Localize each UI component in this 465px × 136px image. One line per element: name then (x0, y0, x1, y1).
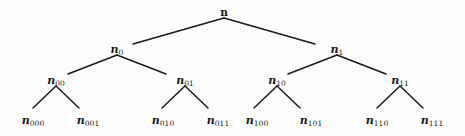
tree-node-n01: n01 (176, 71, 194, 88)
tree-edge (254, 86, 277, 108)
tree-node-n110: n110 (366, 111, 389, 128)
tree-edge (377, 86, 400, 108)
node-base-letter: n (300, 114, 308, 127)
node-subscript: 01 (184, 79, 194, 88)
node-base-letter: n (22, 114, 30, 127)
tree-node-n000: n000 (22, 111, 45, 128)
tree-node-n011: n011 (207, 111, 230, 128)
node-subscript: 10 (276, 79, 286, 88)
node-subscript: 000 (30, 119, 45, 128)
node-base-letter: n (246, 114, 254, 127)
node-base-letter: n (268, 74, 276, 87)
node-subscript: 110 (374, 119, 389, 128)
node-subscript: 11 (399, 79, 409, 88)
tree-edge (162, 86, 185, 108)
tree-node-n11: n11 (391, 71, 409, 88)
node-base-letter: n (421, 114, 429, 127)
tree-edge (56, 86, 79, 108)
node-base-letter: n (47, 74, 55, 87)
node-subscript: 111 (429, 119, 444, 128)
tree-node-n10: n10 (268, 71, 286, 88)
tree-node-n0: n0 (111, 40, 124, 57)
tree-edge (33, 86, 56, 108)
tree-node-n00: n00 (47, 71, 65, 88)
node-subscript: 011 (215, 119, 230, 128)
node-subscript: 1 (339, 48, 344, 57)
tree-edges-layer (0, 0, 465, 136)
tree-edge (68, 55, 117, 74)
node-base-letter: n (111, 43, 119, 56)
tree-node-n001: n001 (77, 111, 100, 128)
node-subscript: 001 (85, 119, 100, 128)
node-base-letter: n (207, 114, 215, 127)
tree-edge (117, 55, 166, 74)
tree-node-n010: n010 (152, 111, 175, 128)
node-base-letter: n (366, 114, 374, 127)
node-subscript: 101 (308, 119, 323, 128)
tree-edge (337, 55, 386, 74)
tree-edge (133, 18, 224, 44)
tree-edge (400, 86, 423, 108)
node-subscript: 0 (119, 48, 124, 57)
tree-node-n111: n111 (421, 111, 444, 128)
node-base-letter: n (391, 74, 399, 87)
node-subscript: 100 (254, 119, 269, 128)
tree-edge (224, 18, 315, 44)
tree-edge (185, 86, 208, 108)
node-base-letter: n (176, 74, 184, 87)
tree-edge (277, 86, 300, 108)
tree-node-root: n (220, 3, 228, 19)
tree-node-n1: n1 (331, 40, 344, 57)
node-subscript: 00 (55, 79, 65, 88)
node-base-letter: n (77, 114, 85, 127)
node-subscript: 010 (160, 119, 175, 128)
node-base-letter: n (220, 6, 228, 18)
node-base-letter: n (152, 114, 160, 127)
tree-edge (288, 55, 337, 74)
binary-tree-diagram: nn0n1n00n01n10n11n000n001n010n011n100n10… (0, 0, 465, 136)
node-base-letter: n (331, 43, 339, 56)
tree-node-n100: n100 (246, 111, 269, 128)
tree-node-n101: n101 (300, 111, 323, 128)
